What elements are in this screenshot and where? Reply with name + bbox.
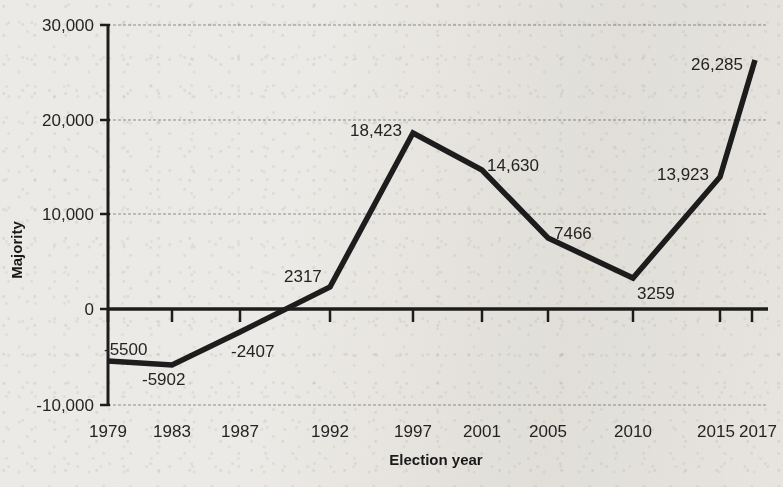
x-tick-label-1987: 1987 [221, 422, 259, 441]
x-axis-title: Election year [389, 451, 483, 468]
data-label-1987: -2407 [231, 342, 274, 361]
data-label-1997: 18,423 [350, 121, 402, 140]
data-label-2015: 13,923 [657, 165, 709, 184]
y-tick-label-20000: 20,000 [42, 111, 94, 130]
x-axis-ticks [108, 309, 752, 322]
x-tick-label-2015: 2015 [697, 422, 735, 441]
y-tick-label-10000: 10,000 [42, 205, 94, 224]
data-point-labels: -5500 -5902 -2407 2317 18,423 14,630 746… [104, 55, 743, 389]
x-tick-label-2005: 2005 [529, 422, 567, 441]
chart-svg: 30,000 20,000 10,000 0 -10,000 1979 1983… [0, 0, 783, 487]
data-label-2005: 7466 [554, 224, 592, 243]
x-tick-label-2001: 2001 [463, 422, 501, 441]
x-tick-label-1979: 1979 [89, 422, 127, 441]
x-tick-label-1992: 1992 [311, 422, 349, 441]
y-axis-title: Majority [8, 221, 25, 279]
y-tick-label-minus10000: -10,000 [36, 396, 94, 415]
data-label-1983: -5902 [142, 370, 185, 389]
x-tick-label-1997: 1997 [394, 422, 432, 441]
x-tick-label-1983: 1983 [153, 422, 191, 441]
x-tick-label-2017: 2017 [739, 422, 777, 441]
line-chart-majority-by-election-year: 30,000 20,000 10,000 0 -10,000 1979 1983… [0, 0, 783, 487]
y-tick-label-30000: 30,000 [42, 16, 94, 35]
x-axis-tick-labels: 1979 1983 1987 1992 1997 2001 2005 2010 … [89, 422, 777, 441]
y-tick-label-0: 0 [85, 300, 94, 319]
data-label-2010: 3259 [637, 284, 675, 303]
x-tick-label-2010: 2010 [614, 422, 652, 441]
series-line-majority [108, 60, 755, 365]
data-label-1979: -5500 [104, 340, 147, 359]
data-label-2001: 14,630 [487, 156, 539, 175]
y-axis-tick-labels: 30,000 20,000 10,000 0 -10,000 [36, 16, 94, 415]
data-label-2017: 26,285 [691, 55, 743, 74]
data-label-1992: 2317 [284, 267, 322, 286]
